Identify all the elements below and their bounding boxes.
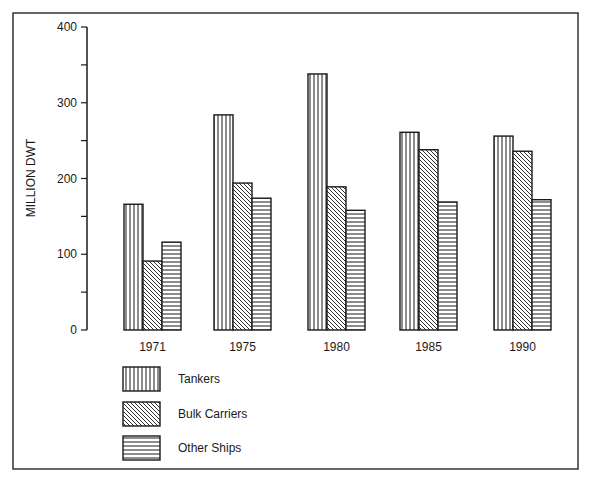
y-tick-label: 0	[70, 323, 77, 337]
x-category-label: 1975	[229, 340, 256, 354]
bar-group-1985	[400, 132, 457, 330]
legend-label: Other Ships	[178, 441, 241, 455]
bar-group-1971	[124, 204, 181, 330]
legend-item-other-ships: Other Ships	[123, 436, 241, 460]
y-tick-label: 400	[57, 20, 77, 34]
bar-group-1975	[214, 115, 271, 330]
x-category-label: 1980	[323, 340, 350, 354]
bar-other-ships	[438, 202, 457, 330]
category-labels: 19711975198019851990	[139, 340, 536, 354]
bars	[124, 74, 551, 330]
bar-tankers	[308, 74, 327, 330]
bar-tankers	[214, 115, 233, 330]
y-tick-label: 300	[57, 96, 77, 110]
bar-group-1990	[494, 136, 551, 330]
legend-label: Bulk Carriers	[178, 407, 247, 421]
y-tick-label: 100	[57, 247, 77, 261]
legend-swatch	[123, 436, 160, 460]
bar-bulk-carriers	[233, 183, 252, 330]
x-category-label: 1990	[509, 340, 536, 354]
bar-other-ships	[532, 200, 551, 330]
bar-bulk-carriers	[143, 261, 162, 330]
chart: 0100200300400 MILLION DWT 19711975198019…	[0, 0, 589, 484]
bar-tankers	[124, 204, 143, 330]
y-tick-label: 200	[57, 172, 77, 186]
legend-item-tankers: Tankers	[123, 367, 220, 391]
y-axis-label: MILLION DWT	[24, 138, 38, 217]
bar-bulk-carriers	[419, 150, 438, 330]
bar-group-1980	[308, 74, 365, 330]
legend-swatch	[123, 402, 160, 426]
bar-tankers	[400, 132, 419, 330]
x-category-label: 1985	[415, 340, 442, 354]
bar-other-ships	[162, 242, 181, 330]
bar-bulk-carriers	[513, 151, 532, 330]
bar-bulk-carriers	[327, 187, 346, 330]
bar-other-ships	[346, 210, 365, 330]
legend: TankersBulk CarriersOther Ships	[123, 367, 247, 460]
x-category-label: 1971	[139, 340, 166, 354]
legend-swatch	[123, 367, 160, 391]
y-axis: 0100200300400	[57, 20, 87, 337]
legend-label: Tankers	[178, 372, 220, 386]
bar-tankers	[494, 136, 513, 330]
legend-item-bulk-carriers: Bulk Carriers	[123, 402, 247, 426]
bar-other-ships	[252, 198, 271, 330]
chart-frame	[13, 13, 578, 469]
